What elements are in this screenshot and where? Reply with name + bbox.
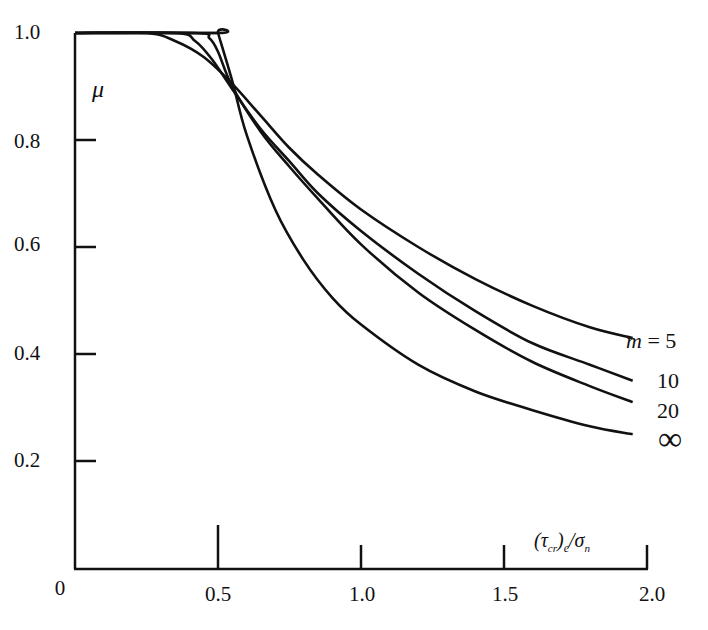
series-label-inf: ∞	[658, 420, 682, 458]
y-tick-label: 0.2	[14, 450, 40, 471]
series-curve-0	[75, 32, 633, 338]
x-axis-label: (τcr)e/σn	[534, 529, 590, 556]
x-tick-label: 0.5	[205, 584, 231, 605]
y-tick-label: 1.0	[14, 22, 40, 43]
x-tick-label: 1.5	[492, 584, 518, 605]
x-tick-label: 2.0	[639, 584, 665, 605]
y-axis-label: μ	[92, 76, 104, 103]
curves	[75, 29, 633, 434]
y-tick-label: 0.6	[14, 234, 40, 255]
y-tick-label: 0.8	[14, 131, 40, 152]
x-tick-label: 1.0	[349, 584, 375, 605]
chart-canvas	[0, 0, 708, 630]
axes	[74, 33, 648, 569]
series-label-m5: m = 5	[626, 328, 676, 354]
series-curve-3	[75, 29, 633, 434]
x-tick-label: 0	[55, 578, 66, 599]
series-curve-2	[75, 33, 633, 403]
y-tick-label: 0.4	[14, 343, 40, 364]
series-curve-1	[75, 32, 633, 380]
series-label-m10: 10	[657, 368, 679, 394]
